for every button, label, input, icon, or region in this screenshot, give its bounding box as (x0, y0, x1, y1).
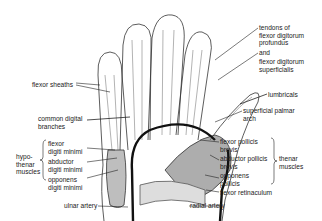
label-abductor-digiti-minimi: abductor digiti minimi (48, 158, 82, 173)
label-line: muscles (279, 163, 303, 171)
label-line: flexor digitorum (259, 58, 304, 66)
label-radial-artery: radial artery (190, 202, 225, 210)
label-abductor-pollicis-brevis: abductor pollicis brevis (220, 155, 267, 170)
label-line: tendons of (259, 24, 304, 32)
label-line: abductor pollicis (220, 155, 267, 163)
label-flexor-retinaculum: flexor retinaculum (220, 189, 272, 197)
label-line: flexor digitorum (259, 32, 304, 40)
label-line: digiti minimi (48, 184, 82, 192)
label-line: brevis (220, 163, 267, 171)
label-lumbricals: lumbricals (268, 91, 298, 99)
label-line: flexor (48, 140, 82, 148)
label-line: superficialis (259, 66, 304, 74)
label-line: brevis (220, 146, 258, 154)
label-line: thenar (16, 161, 40, 169)
label-flexor-digiti-minimi: flexor digiti minimi (48, 140, 82, 155)
label-line: flexor pollicis (220, 138, 258, 146)
label-opponens-digiti-minimi: opponens digiti minimi (48, 176, 82, 191)
label-thenar-muscles: thenar muscles (279, 155, 303, 170)
label-line: opponens (48, 176, 82, 184)
label-line: digiti minimi (48, 148, 82, 156)
label-line: hypo- (16, 153, 40, 161)
label-hypothenar-muscles: hypo- thenar muscles (16, 153, 40, 176)
label-and: and (259, 49, 270, 57)
label-tendons-fdp: tendons of flexor digitorum profundus (259, 24, 304, 47)
label-common-digital-branches: common digital branches (38, 115, 82, 130)
label-line: branches (38, 123, 82, 131)
label-flexor-pollicis-brevis: flexor pollicis brevis (220, 138, 258, 153)
label-line: thenar (279, 155, 303, 163)
label-fds: flexor digitorum superficialis (259, 58, 304, 73)
label-ulnar-artery: ulnar artery (64, 202, 97, 210)
label-line: muscles (16, 168, 40, 176)
label-line: arch (243, 115, 295, 123)
label-line: digiti minimi (48, 166, 82, 174)
label-line: profundus (259, 39, 304, 47)
label-flexor-sheaths: flexor sheaths (32, 81, 73, 89)
label-superficial-palmar-arch: superficial palmar arch (243, 107, 295, 122)
hand-anatomy-diagram: tendons of flexor digitorum profundus an… (0, 0, 322, 221)
label-line: superficial palmar (243, 107, 295, 115)
label-line: pollicis (220, 180, 249, 188)
label-line: abductor (48, 158, 82, 166)
label-opponens-pollicis: opponens pollicis (220, 172, 249, 187)
label-line: opponens (220, 172, 249, 180)
label-line: common digital (38, 115, 82, 123)
